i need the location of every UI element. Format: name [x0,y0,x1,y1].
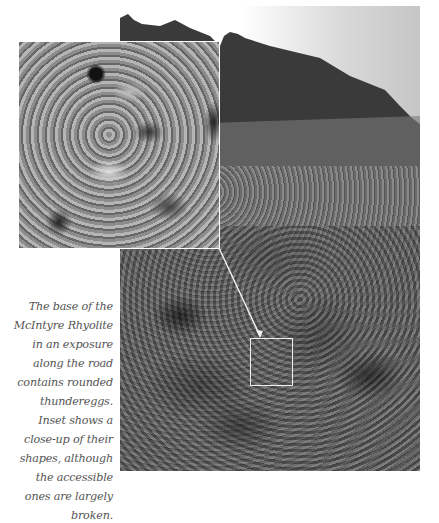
caption-line: thundereggs. [0,392,113,411]
caption-line: Inset shows a [0,411,113,430]
caption-line: shapes, although [0,449,113,468]
caption-line: broken. [0,506,113,523]
caption-line: in an exposure [0,335,113,354]
caption-line: ones are largely [0,487,113,506]
caption-line: the accessible [0,468,113,487]
caption-line: contains rounded [0,373,113,392]
caption-line: McIntyre Rhyolite [0,316,113,335]
figure-caption: The base of the McIntyre Rhyolite in an … [0,297,113,523]
inset-closeup-photo [18,41,220,249]
caption-line: The base of the [0,297,113,316]
detail-highlight-box [250,338,293,386]
caption-line: close-up of their [0,430,113,449]
caption-line: along the road [0,354,113,373]
